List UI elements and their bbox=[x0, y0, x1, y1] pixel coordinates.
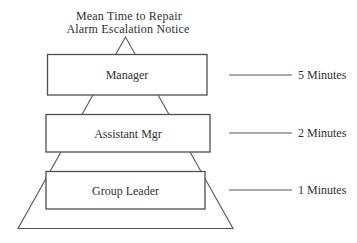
tier-label-manager: Manager bbox=[106, 68, 149, 82]
tier-label-group-leader: Group Leader bbox=[92, 184, 159, 198]
mttr-escalation-diagram: Mean Time to Repair Alarm Escalation Not… bbox=[0, 0, 357, 243]
time-label-2-minutes: 2 Minutes bbox=[298, 126, 347, 140]
time-label-1-minutes: 1 Minutes bbox=[298, 183, 347, 197]
diagram-title-line2: Alarm Escalation Notice bbox=[66, 22, 189, 36]
tier-label-assistant-mgr: Assistant Mgr bbox=[94, 127, 162, 141]
diagram-title-line1: Mean Time to Repair bbox=[76, 9, 182, 23]
diagram-canvas: Mean Time to Repair Alarm Escalation Not… bbox=[0, 0, 357, 243]
time-label-5-minutes: 5 Minutes bbox=[298, 68, 347, 82]
